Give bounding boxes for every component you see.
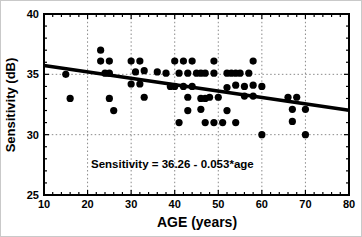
y-tick-label: 25 (27, 189, 39, 201)
x-tick-label: 20 (81, 198, 93, 210)
data-point (241, 92, 248, 99)
data-point (189, 57, 196, 64)
data-point (180, 57, 187, 64)
data-point (284, 94, 291, 101)
data-point (302, 131, 309, 138)
y-tick-label: 40 (27, 8, 39, 20)
data-point (250, 82, 257, 89)
data-point (189, 83, 196, 90)
data-point (136, 57, 143, 64)
data-point (258, 131, 265, 138)
data-point (110, 107, 117, 114)
data-point (258, 83, 265, 90)
data-point (132, 68, 139, 75)
x-axis-title: AGE (years) (157, 214, 237, 230)
data-point (250, 57, 257, 64)
data-point (206, 94, 213, 101)
data-point (210, 119, 217, 126)
x-tick-label: 30 (125, 198, 137, 210)
data-point (250, 92, 257, 99)
data-point (236, 70, 243, 77)
data-point (67, 95, 74, 102)
x-tick-label: 80 (343, 198, 355, 210)
data-point (219, 119, 226, 126)
data-point (180, 83, 187, 90)
data-point (289, 106, 296, 113)
data-point (97, 47, 104, 54)
data-point (197, 106, 204, 113)
data-point (210, 70, 217, 77)
data-point (202, 119, 209, 126)
regression-equation-label: Sensitivity = 36.26 - 0.053*age (91, 158, 254, 170)
y-tick-label: 30 (27, 129, 39, 141)
data-point (128, 57, 135, 64)
data-point (97, 57, 104, 64)
scatter-plot: 102030405060708025303540 Sensitivity = 3… (1, 1, 362, 237)
data-point (184, 70, 191, 77)
data-point (210, 57, 217, 64)
data-point (223, 84, 230, 91)
data-point (175, 119, 182, 126)
x-tick-label: 50 (212, 198, 224, 210)
data-point (241, 83, 248, 90)
data-point (171, 57, 178, 64)
y-axis-title: Sensitivity (dB) (3, 58, 18, 153)
data-point (136, 80, 143, 87)
data-point (302, 106, 309, 113)
data-point (289, 118, 296, 125)
data-point (202, 70, 209, 77)
data-point (154, 68, 161, 75)
data-points (62, 47, 309, 139)
data-point (184, 107, 191, 114)
data-point (171, 83, 178, 90)
data-point (106, 57, 113, 64)
data-point (141, 94, 148, 101)
x-tick-label: 60 (256, 198, 268, 210)
data-point (141, 67, 148, 74)
data-point (62, 71, 69, 78)
scatter-figure: 102030405060708025303540 Sensitivity = 3… (0, 0, 362, 237)
x-tick-label: 40 (169, 198, 181, 210)
y-tick-label: 35 (27, 68, 39, 80)
data-point (293, 94, 300, 101)
data-point (215, 94, 222, 101)
data-point (175, 70, 182, 77)
x-tick-label: 10 (38, 198, 50, 210)
data-point (232, 119, 239, 126)
data-point (106, 70, 113, 77)
data-point (232, 82, 239, 89)
data-point (223, 107, 230, 114)
data-point (128, 80, 135, 87)
data-point (184, 94, 191, 101)
data-point (106, 95, 113, 102)
x-tick-label: 70 (299, 198, 311, 210)
data-point (245, 70, 252, 77)
data-point (162, 70, 169, 77)
